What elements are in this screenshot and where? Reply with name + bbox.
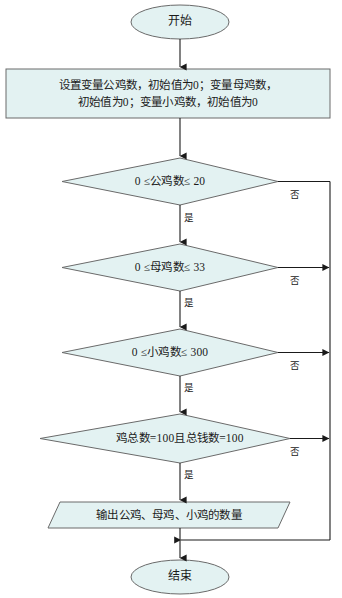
flowchart-diagram: 开始 设置变量公鸡数，初始值为0；变量母鸡数， 初始值为0；变量小鸡数，初始值为… [0,0,342,598]
cond-rooster-diamond-shape [62,158,278,205]
init-process-shape [6,69,330,118]
cond-total-diamond-shape [40,414,290,463]
output-parallelogram-shape [48,502,290,528]
flowchart-canvas [0,0,342,598]
cond-hen-diamond-shape [62,244,278,291]
end-oval-shape [131,560,229,594]
cond-chick-diamond-shape [62,329,278,376]
start-oval-shape [131,5,229,39]
